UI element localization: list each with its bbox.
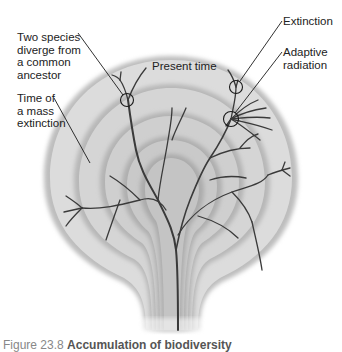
label-mass-extinction: Time of a mass extinction [17,92,66,130]
label-adaptive-radiation: Adaptive radiation [283,46,328,71]
caption-number: Figure 23.8 [3,338,64,352]
figure-caption: Figure 23.8 Accumulation of biodiversity [3,338,232,352]
label-extinction: Extinction [283,15,333,28]
time-layers [44,56,298,334]
caption-title: Accumulation of biodiversity [67,338,232,352]
label-present-time: Present time [152,60,217,73]
label-diverge: Two species diverge from a common ancest… [17,31,81,81]
